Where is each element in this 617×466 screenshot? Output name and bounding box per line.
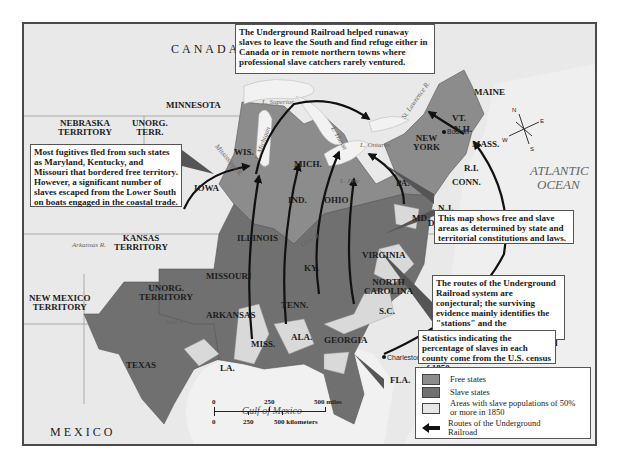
label-connecticut: CONN.: [452, 178, 481, 187]
label-missouri: MISSOURI: [206, 272, 252, 281]
charleston-dot: [382, 355, 386, 359]
map-frame: CANADA MEXICO ATLANTIC OCEAN Gulf of Mex…: [22, 22, 597, 446]
label-florida: FLA.: [390, 376, 410, 385]
label-georgia: GEORGIA: [324, 336, 368, 345]
callout-census-statistics: Statistics indicating the percentage of …: [418, 330, 556, 364]
label-canada: CANADA: [171, 45, 240, 54]
arrow-left-icon: [422, 423, 440, 433]
label-ohio: OHIO: [324, 196, 349, 205]
label-nebraska-territory: NEBRASKATERRITORY: [58, 119, 112, 137]
label-alabama: ALA.: [291, 333, 312, 342]
label-tennessee: TENN.: [281, 301, 308, 310]
label-louisiana: LA.: [220, 364, 235, 373]
label-ocean: OCEAN: [537, 178, 580, 191]
callout-free-slave-areas: This map shows free and slave areas as d…: [434, 210, 574, 244]
high-slave-areas-swatch: [422, 403, 440, 414]
compass-e: E: [540, 117, 544, 126]
label-minnesota: MINNESOTA: [166, 101, 221, 110]
label-maryland: MD.: [412, 214, 429, 223]
label-lake-erie: L. Erie: [340, 177, 359, 186]
label-charleston: Charleston: [387, 353, 421, 362]
label-lake-superior: L. Superior: [262, 98, 294, 107]
label-maine: MAINE: [474, 88, 505, 97]
legend-item-slave-states: Slave states: [422, 387, 490, 398]
legend-item-high-slave-areas: Areas with slave populations of 50% or m…: [422, 399, 582, 417]
compass-s: S: [530, 145, 534, 154]
label-mississippi: MISS.: [251, 340, 275, 349]
label-new-mexico-territory: NEW MEXICOTERRITORY: [29, 294, 91, 312]
label-new-york: NEWYORK: [413, 134, 440, 152]
label-wisconsin: WIS.: [234, 148, 254, 157]
label-iowa: IOWA: [194, 184, 219, 193]
callout-fugitives: Most fugitives fled from such states as …: [30, 144, 182, 207]
label-massachusetts: MASS.: [472, 140, 499, 149]
label-kentucky: KY.: [304, 264, 319, 273]
label-indiana: IND.: [288, 196, 307, 205]
compass-w: W: [502, 136, 508, 145]
label-north-carolina: NORTHCAROLINA: [364, 278, 413, 296]
label-red-river: Red R.: [166, 318, 185, 327]
free-states-swatch: [422, 374, 440, 385]
label-mexico: MEXICO: [50, 428, 115, 437]
label-vermont: VT.: [452, 114, 466, 123]
label-illinois: ILLINOIS: [237, 234, 278, 243]
scale-bar: 0 250 500 miles 0 250 500 kilometers: [214, 398, 344, 436]
boston-dot: [442, 130, 446, 134]
compass-n: N: [512, 106, 516, 115]
label-texas: TEXAS: [126, 361, 156, 370]
slave-states-swatch: [422, 387, 440, 398]
label-south-carolina: S.C.: [379, 307, 395, 316]
legend-item-free-states: Free states: [422, 374, 486, 385]
label-michigan: MICH.: [294, 160, 322, 169]
label-lake-ontario: L. Ontario: [360, 141, 390, 150]
label-boston: Boston: [447, 127, 469, 136]
legend-item-routes: Routes of the Underground Railroad: [422, 419, 552, 437]
label-atlantic: ATLANTIC: [530, 164, 589, 177]
label-virginia: VIRGINIA: [362, 251, 406, 260]
callout-underground-railroad: The Underground Railroad helped runaway …: [235, 24, 435, 74]
label-unorg-territory: UNORG.TERRITORY: [139, 284, 193, 302]
label-arkansas-river: Arkansas R.: [72, 241, 106, 250]
label-unorg-terr: UNORG.TERR.: [132, 119, 168, 137]
scale-line: [214, 411, 326, 412]
label-arkansas: ARKANSAS: [206, 311, 256, 320]
label-pennsylvania: PA.: [396, 179, 410, 188]
label-kansas-territory: KANSASTERRITORY: [114, 234, 168, 252]
legend: Free states Slave states Areas with slav…: [415, 367, 591, 439]
label-rhode-island: R.I.: [464, 164, 479, 173]
